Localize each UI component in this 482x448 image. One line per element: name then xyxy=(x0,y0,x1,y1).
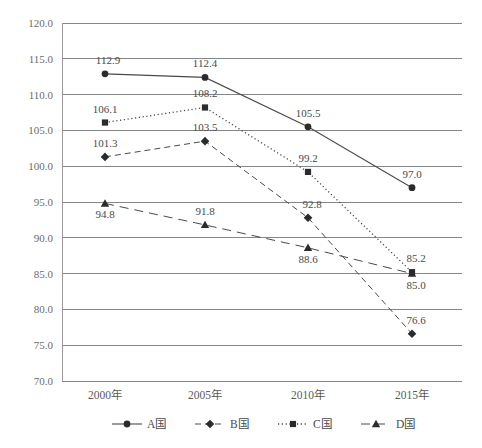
legend-item-A国[interactable]: A国 xyxy=(112,418,166,430)
data-point-label: 112.4 xyxy=(193,57,218,69)
series-lines xyxy=(105,74,412,334)
marker-square xyxy=(102,119,108,125)
y-axis-tick-labels: 120.0115.0110.0105.0100.095.090.085.080.… xyxy=(28,17,53,387)
legend-item-D国[interactable]: D国 xyxy=(361,418,415,430)
data-point-label: 103.5 xyxy=(193,121,218,133)
chart-canvas: 120.0115.0110.0105.0100.095.090.085.080.… xyxy=(0,0,482,448)
x-axis-tick-label: 2010年 xyxy=(291,388,325,401)
y-axis-tick-label: 120.0 xyxy=(28,17,53,29)
data-point-label: 85.2 xyxy=(406,252,425,264)
legend-label: B国 xyxy=(230,418,249,430)
data-point-label: 108.2 xyxy=(193,87,218,99)
data-point-label: 85.0 xyxy=(406,279,426,291)
data-point-label: 112.9 xyxy=(96,54,121,66)
marker-triangle xyxy=(201,221,209,228)
legend-label: C国 xyxy=(313,418,332,430)
data-point-label: 91.8 xyxy=(195,205,215,217)
line-chart: 120.0115.0110.0105.0100.095.090.085.080.… xyxy=(0,0,482,448)
y-axis-tick-label: 80.0 xyxy=(34,303,54,315)
series-markers xyxy=(101,70,417,338)
legend-item-C国[interactable]: C国 xyxy=(278,418,332,430)
marker-square xyxy=(290,421,296,427)
marker-triangle xyxy=(101,199,109,206)
gridlines xyxy=(62,23,462,381)
marker-diamond xyxy=(101,153,110,162)
legend: A国B国C国D国 xyxy=(112,418,415,430)
marker-circle xyxy=(124,421,131,428)
legend-label: D国 xyxy=(396,418,415,430)
x-axis-tick-label: 2000年 xyxy=(88,388,122,401)
data-point-label: 101.3 xyxy=(93,137,118,149)
marker-circle xyxy=(102,70,109,77)
marker-square xyxy=(305,169,311,175)
legend-item-B国[interactable]: B国 xyxy=(195,418,249,430)
data-point-label: 99.2 xyxy=(298,152,317,164)
series-line-D国 xyxy=(105,203,412,273)
marker-circle xyxy=(305,123,312,130)
y-axis-tick-label: 95.0 xyxy=(34,196,54,208)
y-axis-tick-label: 75.0 xyxy=(34,339,54,351)
marker-diamond xyxy=(201,137,210,146)
marker-circle xyxy=(409,184,416,191)
marker-triangle xyxy=(304,244,312,251)
series-line-C国 xyxy=(105,107,412,272)
y-axis-tick-label: 110.0 xyxy=(29,89,54,101)
marker-square xyxy=(202,104,208,110)
legend-label: A国 xyxy=(147,418,166,430)
y-axis-tick-label: 115.0 xyxy=(29,53,54,65)
y-axis-tick-label: 70.0 xyxy=(34,375,54,387)
marker-circle xyxy=(202,74,209,81)
y-axis-tick-label: 100.0 xyxy=(28,160,53,172)
y-axis-tick-label: 90.0 xyxy=(34,232,54,244)
x-axis-tick-label: 2005年 xyxy=(188,388,222,401)
marker-diamond xyxy=(206,420,215,429)
data-point-label: 76.6 xyxy=(406,314,426,326)
data-point-label: 105.5 xyxy=(296,107,321,119)
y-axis-tick-label: 85.0 xyxy=(34,268,54,280)
y-axis-tick-label: 105.0 xyxy=(28,124,53,136)
data-point-label: 92.8 xyxy=(302,198,322,210)
data-point-label: 88.6 xyxy=(298,253,318,265)
x-axis-tick-labels: 2000年2005年2010年2015年 xyxy=(88,388,429,401)
data-point-label: 94.8 xyxy=(95,208,115,220)
data-point-label: 106.1 xyxy=(93,103,118,115)
data-point-label: 97.0 xyxy=(402,168,422,180)
x-axis-tick-label: 2015年 xyxy=(395,388,429,401)
